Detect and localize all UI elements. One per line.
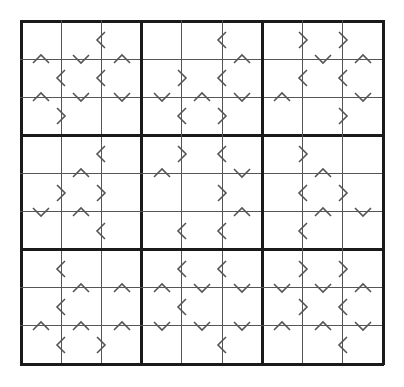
box-border-line xyxy=(261,20,264,365)
cell-r4c1[interactable] xyxy=(21,135,61,173)
box-border-line xyxy=(140,20,143,365)
sudoku-board xyxy=(21,21,383,364)
box-border-line xyxy=(20,363,384,366)
box-border-line xyxy=(20,248,384,251)
box-border-line xyxy=(20,20,384,23)
box-border-line xyxy=(382,20,385,365)
box-border-line xyxy=(20,20,23,365)
cell-r4c9[interactable] xyxy=(343,135,383,173)
cell-r1c4[interactable] xyxy=(142,21,182,59)
box-border-line xyxy=(20,134,384,137)
